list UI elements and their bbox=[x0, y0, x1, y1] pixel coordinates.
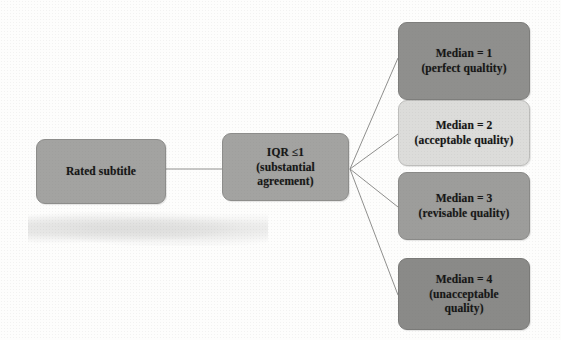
edge-iqr-to-median1 bbox=[350, 58, 398, 169]
diagram-canvas: Rated subtitle IQR ≤1 (substantial agree… bbox=[0, 0, 561, 340]
node-median-4[interactable]: Median = 4 (unacceptable quality) bbox=[398, 258, 530, 330]
node-iqr-line3: agreement) bbox=[257, 174, 313, 189]
node-median-1-line1: Median = 1 bbox=[436, 46, 493, 61]
node-rated-subtitle[interactable]: Rated subtitle bbox=[36, 139, 166, 204]
node-iqr-line1: IQR ≤1 bbox=[267, 145, 304, 160]
node-median-2-line1: Median = 2 bbox=[436, 118, 493, 133]
node-median-3[interactable]: Median = 3 (revisable quality) bbox=[398, 172, 530, 240]
node-median-3-line2: (revisable quality) bbox=[419, 206, 510, 221]
node-median-4-line2: (unacceptable bbox=[429, 287, 499, 302]
node-median-1[interactable]: Median = 1 (perfect qualtity) bbox=[398, 22, 530, 100]
node-median-4-line3: quality) bbox=[444, 301, 483, 316]
node-median-1-line2: (perfect qualtity) bbox=[421, 61, 506, 76]
node-median-3-line1: Median = 3 bbox=[436, 191, 493, 206]
node-median-2[interactable]: Median = 2 (acceptable quality) bbox=[398, 100, 530, 166]
node-iqr[interactable]: IQR ≤1 (substantial agreement) bbox=[222, 133, 349, 201]
node-iqr-line2: (substantial bbox=[256, 160, 315, 175]
node-rated-subtitle-label: Rated subtitle bbox=[66, 164, 136, 179]
node-median-4-line1: Median = 4 bbox=[436, 272, 493, 287]
node-median-2-line2: (acceptable quality) bbox=[415, 133, 514, 148]
